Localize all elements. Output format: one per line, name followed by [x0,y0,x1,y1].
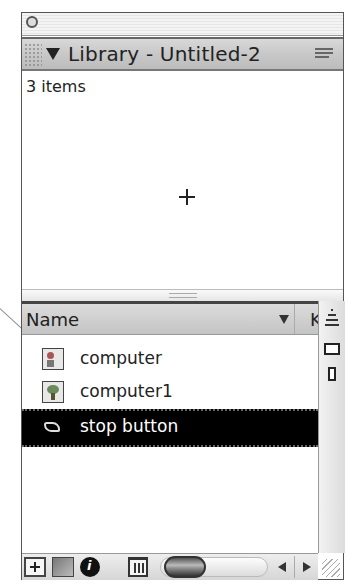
registration-point-icon [179,189,195,205]
graphic-symbol-icon [42,348,64,370]
panel-options-menu-icon[interactable] [315,46,335,64]
properties-icon[interactable] [80,557,100,577]
column-header: Name K [22,301,318,335]
library-panel: Library - Untitled-2 3 items Name K comp [21,12,344,580]
item-label: computer [80,348,162,368]
arrow-left-icon[interactable] [278,562,286,572]
grip-icon[interactable] [24,43,42,67]
symbol-preview-area [22,73,343,289]
narrow-view-icon [328,367,336,381]
circle-close-icon[interactable] [26,16,38,28]
panel-title-bar[interactable]: Library - Untitled-2 [22,37,343,71]
new-folder-icon[interactable] [52,557,74,577]
item-label: computer1 [80,381,173,401]
item-count: 3 items [26,77,86,96]
new-symbol-icon[interactable] [24,557,46,577]
sort-descending-icon[interactable] [279,315,289,324]
item-label: stop button [80,416,178,436]
wide-view-icon [324,343,340,355]
narrow-state-button[interactable] [321,363,343,389]
arrow-right-icon[interactable] [303,562,311,572]
sort-order-icon [331,309,333,311]
view-buttons-strip [318,301,345,553]
panel-dock-bar[interactable] [22,13,343,36]
button-symbol-icon [42,416,64,438]
scrollbar-thumb[interactable] [164,556,206,578]
column-separator[interactable] [294,304,295,334]
arrow-separator [294,556,295,578]
sort-order-button[interactable] [321,305,343,331]
triangle-down-icon[interactable] [46,48,60,60]
list-item-stop-button[interactable]: stop button [22,409,318,447]
list-item-computer[interactable]: computer [22,343,318,376]
column-kind[interactable]: K [310,309,318,330]
resize-grip-icon[interactable] [322,559,340,577]
wide-state-button[interactable] [321,337,343,363]
library-item-list: computer computer1 stop button [22,335,318,553]
panel-title: Library - Untitled-2 [68,42,261,66]
list-item-computer1[interactable]: computer1 [22,376,318,409]
trash-icon[interactable] [128,557,148,577]
divider-handle-icon[interactable] [169,293,197,298]
bitmap-icon [42,381,64,403]
column-name[interactable]: Name [26,309,79,330]
library-toolbar [22,553,318,580]
